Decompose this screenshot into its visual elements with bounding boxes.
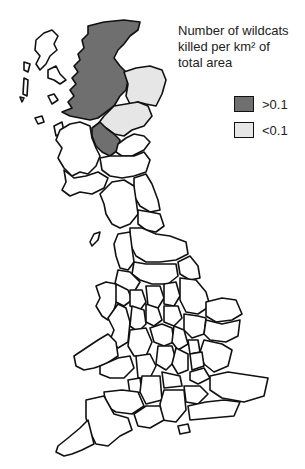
island-skye xyxy=(48,66,66,84)
island-mull xyxy=(48,94,58,104)
island-uist xyxy=(24,62,30,72)
legend-item-high: >0.1 xyxy=(234,96,288,112)
region-cambridgeshire xyxy=(184,314,206,338)
region-cumbria xyxy=(100,180,138,228)
region-cornwall xyxy=(56,420,94,456)
legend-item-low: <0.1 xyxy=(234,122,288,138)
region-essex xyxy=(200,340,232,372)
region-leicestershire xyxy=(164,306,182,326)
island-lewis xyxy=(35,30,58,70)
region-norfolk xyxy=(206,298,242,322)
region-lancashire xyxy=(114,232,134,270)
legend-swatch-high xyxy=(234,96,254,112)
region-london xyxy=(190,368,210,384)
legend-title: Number of wildcats killed per km² of tot… xyxy=(178,23,303,71)
region-nottinghamshire xyxy=(164,282,180,306)
region-surrey xyxy=(184,386,208,404)
legend-title-line-1: Number of wildcats xyxy=(178,23,303,39)
region-staffordshire xyxy=(146,304,162,326)
region-hertfordshire xyxy=(190,352,204,370)
legend-swatch-low xyxy=(234,122,254,138)
legend-title-line-3: total area xyxy=(178,55,303,71)
island-small-2 xyxy=(35,116,44,124)
region-northumberland xyxy=(134,174,160,212)
legend-label-low: <0.1 xyxy=(262,123,288,138)
region-humberside xyxy=(178,256,200,280)
region-suffolk xyxy=(204,320,240,342)
region-wiltshire xyxy=(140,376,162,404)
region-buckinghamshire xyxy=(172,348,188,374)
region-warwickshire xyxy=(150,324,174,346)
island-man xyxy=(90,232,100,246)
region-grampian xyxy=(124,66,166,106)
island-barra xyxy=(23,78,28,96)
island-small-1 xyxy=(20,97,24,102)
region-hereford xyxy=(128,328,152,356)
legend-label-high: >0.1 xyxy=(262,97,288,112)
region-borders xyxy=(100,152,150,178)
region-kent xyxy=(210,372,268,402)
region-gloucestershire xyxy=(136,354,156,378)
region-north-yorkshire xyxy=(130,228,188,262)
legend-title-line-2: killed per km² of xyxy=(178,39,303,55)
island-wight xyxy=(178,424,190,434)
